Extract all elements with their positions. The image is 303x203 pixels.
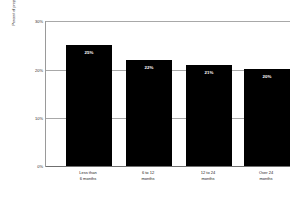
bar[interactable]: 22% <box>126 60 172 166</box>
y-tick-label-0: 0% <box>21 164 43 169</box>
y-axis-title: Percent of project FTE dedicated to CM <box>9 0 19 48</box>
x-axis-label-line: months <box>118 176 178 182</box>
bar-value-label: 22% <box>126 65 172 71</box>
bar-group: 25% <box>66 45 112 166</box>
x-axis-baseline <box>46 166 290 167</box>
x-axis-label: Over 24 months <box>236 170 296 181</box>
bar-value-label: 21% <box>186 70 232 76</box>
bar-group: 20% <box>244 69 290 166</box>
x-axis-label-line: months <box>236 176 296 182</box>
bar[interactable]: 20% <box>244 69 290 166</box>
y-tick-label-10: 10% <box>21 116 43 121</box>
x-axis-category-labels: Less than 6 months 6 to 12 months 12 to … <box>45 170 289 196</box>
bar[interactable]: 21% <box>186 65 232 167</box>
bar-chart-figure: Percent of project FTE dedicated to CM 3… <box>0 0 303 203</box>
x-axis-label: 12 to 24 months <box>178 170 238 181</box>
x-axis-label: Less than 6 months <box>58 170 118 181</box>
x-axis-label: 6 to 12 months <box>118 170 178 181</box>
y-axis-tick-labels: 30% 20% 10% 0% <box>19 21 43 167</box>
gridline-30 <box>46 21 290 22</box>
bar-value-label: 25% <box>66 50 112 56</box>
plot-area: 25% 22% 21% 20% <box>45 21 289 167</box>
x-axis-label-line: 6 months <box>58 176 118 182</box>
bar-value-label: 20% <box>244 74 290 80</box>
y-tick-label-30: 30% <box>21 19 43 24</box>
y-tick-label-20: 20% <box>21 68 43 73</box>
x-axis-label-line: months <box>178 176 238 182</box>
bar[interactable]: 25% <box>66 45 112 166</box>
bar-group: 22% <box>126 60 172 166</box>
bar-group: 21% <box>186 65 232 167</box>
